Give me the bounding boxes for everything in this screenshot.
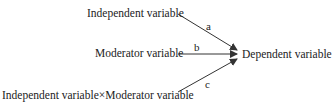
- independent-variable-node: Independent variable: [87, 8, 184, 20]
- dependent-variable-node: Dependent variable: [242, 49, 332, 61]
- interaction-term-node: Independent variable×Moderator variable: [2, 90, 194, 102]
- path-label-c: c: [205, 79, 210, 90]
- path-label-b: b: [194, 42, 200, 53]
- moderator-variable-node: Moderator variable: [95, 48, 183, 60]
- path-label-a: a: [206, 21, 211, 32]
